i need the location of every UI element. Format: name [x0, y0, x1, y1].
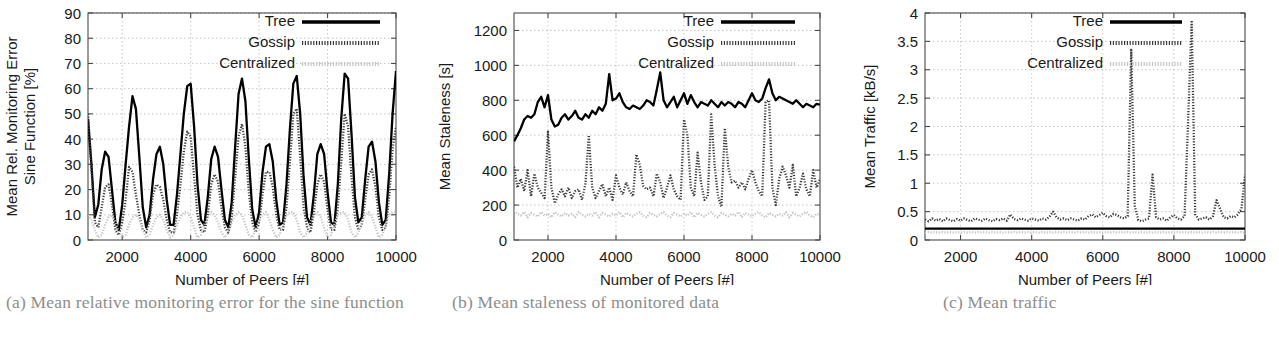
- x-tick-label: 2000: [531, 248, 564, 265]
- x-tick-label: 4000: [174, 248, 207, 265]
- y-tick-label: 3.5: [897, 33, 918, 50]
- series-line-tree: [514, 72, 820, 141]
- y-tick-label: 10: [64, 206, 81, 223]
- chart-panel-c: 00.511.522.533.54200040006000800010000Tr…: [853, 0, 1279, 346]
- x-tick-label: 4000: [599, 248, 632, 265]
- chart-svg-a: 0102030405060708090200040006000800010000…: [0, 0, 426, 285]
- series-line-centralized: [514, 210, 820, 217]
- y-tick-label: 4: [910, 5, 918, 22]
- plot-area-a: 0102030405060708090200040006000800010000…: [0, 0, 426, 285]
- x-axis-title: Number of Peers [#]: [600, 271, 734, 285]
- y-axis-title-line1: Mean Rel. Monitoring Error: [3, 36, 20, 216]
- y-tick-label: 90: [64, 5, 81, 22]
- series-group: [88, 71, 396, 237]
- legend-label-tree: Tree: [265, 12, 295, 29]
- series-line-centralized: [88, 212, 396, 237]
- y-tick-label: 2.5: [897, 90, 918, 107]
- y-tick-label: 0.5: [897, 203, 918, 220]
- x-axis-title: Number of Peers [#]: [175, 271, 309, 285]
- legend-label-centralized: Centralized: [638, 54, 714, 71]
- x-tick-label: 8000: [1157, 248, 1190, 265]
- y-tick-label: 3: [910, 61, 918, 78]
- caption-b: (b) Mean staleness of monitored data: [452, 292, 867, 313]
- y-tick-label: 40: [64, 131, 81, 148]
- legend-label-tree: Tree: [684, 12, 714, 29]
- chart-panel-b: 0200400600800100012002000400060008000100…: [424, 0, 850, 346]
- series-line-centralized: [925, 232, 1245, 233]
- x-tick-label: 8000: [311, 248, 344, 265]
- y-tick-label: 60: [64, 80, 81, 97]
- chart-panel-a: 0102030405060708090200040006000800010000…: [0, 0, 426, 346]
- plot-area-b: 0200400600800100012002000400060008000100…: [424, 0, 850, 285]
- legend: TreeGossipCentralized: [219, 12, 380, 71]
- series-line-gossip: [925, 20, 1245, 221]
- y-tick-label: 20: [64, 181, 81, 198]
- x-tick-label: 8000: [735, 248, 768, 265]
- y-tick-label: 1.5: [897, 146, 918, 163]
- x-tick-label: 10000: [375, 248, 417, 265]
- y-tick-label: 2: [910, 118, 918, 135]
- series-group: [514, 72, 820, 217]
- legend-label-gossip: Gossip: [1056, 33, 1103, 50]
- plot-area-c: 00.511.522.533.54200040006000800010000Tr…: [853, 0, 1279, 285]
- y-tick-label: 0: [499, 232, 507, 249]
- figure-three-panel-charts: 0102030405060708090200040006000800010000…: [0, 0, 1279, 346]
- x-tick-label: 2000: [944, 248, 977, 265]
- chart-svg-b: 0200400600800100012002000400060008000100…: [424, 0, 850, 285]
- y-tick-label: 200: [482, 197, 507, 214]
- legend-label-gossip: Gossip: [248, 33, 295, 50]
- legend-label-centralized: Centralized: [1027, 54, 1103, 71]
- caption-a: (a) Mean relative monitoring error for t…: [6, 292, 421, 313]
- x-tick-label: 2000: [106, 248, 139, 265]
- x-tick-label: 4000: [1015, 248, 1048, 265]
- x-tick-label: 10000: [799, 248, 841, 265]
- legend-label-gossip: Gossip: [667, 33, 714, 50]
- y-tick-label: 1000: [474, 57, 507, 74]
- y-tick-label: 0: [910, 232, 918, 249]
- y-axis-title-line2: Sine Function [%]: [21, 68, 38, 186]
- y-tick-label: 30: [64, 156, 81, 173]
- legend-label-tree: Tree: [1073, 12, 1103, 29]
- x-tick-label: 6000: [242, 248, 275, 265]
- series-line-gossip: [514, 100, 820, 207]
- y-tick-label: 50: [64, 105, 81, 122]
- x-tick-label: 10000: [1224, 248, 1266, 265]
- y-axis-title: Mean Staleness [s]: [436, 63, 453, 191]
- y-tick-label: 1200: [474, 22, 507, 39]
- legend-label-centralized: Centralized: [219, 54, 295, 71]
- y-tick-label: 80: [64, 30, 81, 47]
- y-axis-title: Mean Traffic [kB/s]: [861, 65, 878, 189]
- y-tick-label: 800: [482, 92, 507, 109]
- y-tick-label: 400: [482, 162, 507, 179]
- y-tick-label: 0: [73, 232, 81, 249]
- y-tick-label: 70: [64, 55, 81, 72]
- caption-c: (c) Mean traffic: [943, 292, 1279, 313]
- legend: TreeGossipCentralized: [638, 12, 795, 71]
- y-tick-label: 1: [910, 175, 918, 192]
- x-tick-label: 6000: [667, 248, 700, 265]
- x-tick-label: 6000: [1086, 248, 1119, 265]
- y-tick-label: 600: [482, 127, 507, 144]
- chart-svg-c: 00.511.522.533.54200040006000800010000Tr…: [853, 0, 1279, 285]
- x-axis-title: Number of Peers [#]: [1018, 271, 1152, 285]
